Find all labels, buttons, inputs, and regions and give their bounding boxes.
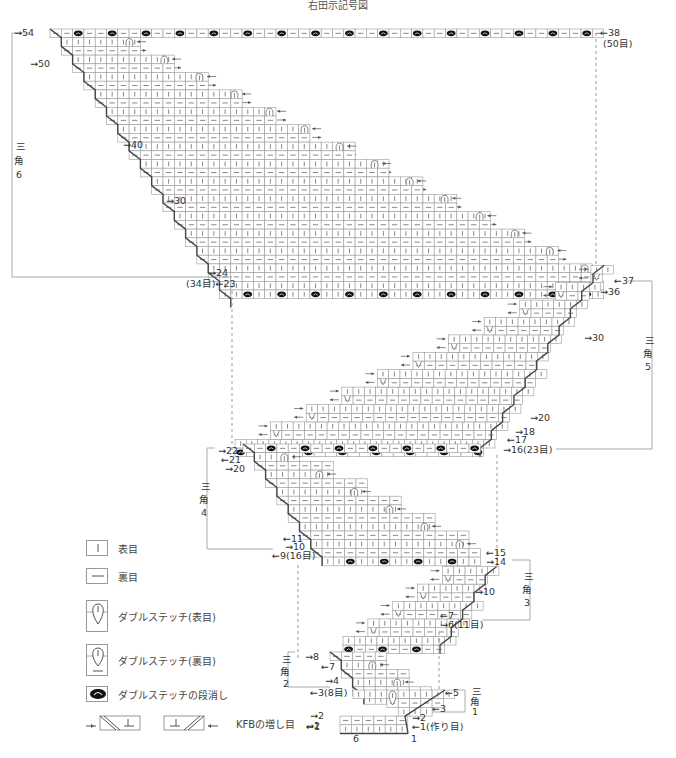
legend-label: 裏目	[118, 569, 138, 584]
row-label: 3	[524, 597, 530, 608]
row-label: 4	[201, 507, 207, 518]
row-label: →10	[475, 586, 495, 597]
row-label: →6(11目)	[440, 619, 484, 630]
row-label: 5	[645, 361, 651, 372]
row-label: (34目)←23	[186, 278, 236, 289]
purl-stitch-icon	[86, 568, 108, 584]
row-label: 角	[199, 494, 209, 505]
row-label: ←1	[306, 721, 320, 732]
row-label: 三	[645, 335, 655, 346]
column-label: 1	[411, 733, 417, 744]
row-label: →54	[14, 27, 34, 38]
legend-item-double-purl: ダブルステッチ(裏目)	[86, 644, 216, 676]
row-label: →36	[600, 286, 620, 297]
row-label: →4	[325, 675, 339, 686]
legend-item-knit: 表目	[86, 540, 138, 556]
row-label: →24	[208, 267, 228, 278]
kfb-increase-icon	[86, 714, 218, 732]
row-label: ←3	[432, 703, 446, 714]
row-label: →30	[166, 195, 186, 206]
triangle-label: 三	[16, 141, 26, 152]
row-label: →8	[305, 651, 319, 662]
row-label: (50目)	[603, 38, 633, 49]
legend-item-double-knit: ダブルステッチ(表目)	[86, 600, 216, 632]
row-label: ←37	[614, 275, 634, 286]
legend-item-double-close: ダブルステッチの段消し	[86, 686, 228, 702]
legend-label: KFBの増し目	[236, 716, 295, 731]
row-label: →30	[584, 332, 604, 343]
row-label: 角	[643, 348, 653, 359]
row-label: 2	[283, 678, 289, 689]
row-label: →40	[123, 139, 143, 150]
row-label: →20	[225, 463, 245, 474]
row-label: →50	[30, 58, 50, 69]
column-label: 6	[353, 733, 359, 744]
row-label: 角	[280, 666, 290, 677]
row-label: 三	[524, 571, 534, 582]
row-label: 三	[201, 481, 211, 492]
legend-label: ダブルステッチ(裏目)	[118, 653, 216, 668]
knit-stitch-icon	[86, 540, 108, 556]
double-stitch-knit-icon	[86, 600, 108, 632]
row-label: →14	[486, 556, 506, 567]
row-label: →16(23目)	[503, 444, 553, 455]
double-stitch-purl-icon	[86, 644, 108, 676]
row-label: ←7	[321, 661, 335, 672]
row-label: ←9(16目)	[272, 550, 316, 561]
row-label: ←5	[445, 687, 459, 698]
row-label: 角	[522, 584, 532, 595]
legend-label: 表目	[118, 541, 138, 556]
row-label: 三	[282, 654, 292, 665]
triangle-label: 角	[14, 155, 24, 166]
row-label: ←1(作り目)	[412, 721, 463, 732]
row-label: ←3(8目)	[310, 687, 347, 698]
legend-label: ダブルステッチの段消し	[118, 687, 228, 702]
triangle-label: 6	[16, 169, 22, 180]
row-label: ←38	[600, 27, 620, 38]
legend-label: ダブルステッチ(表目)	[118, 609, 216, 624]
row-label: 1	[472, 706, 478, 717]
double-stitch-close-icon	[86, 686, 108, 702]
legend-item-kfb: KFBの増し目	[86, 714, 295, 732]
legend-item-purl: 裏目	[86, 568, 138, 584]
row-label: →20	[530, 412, 550, 423]
